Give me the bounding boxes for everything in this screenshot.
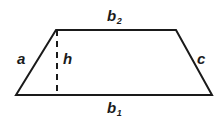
trapezoid-figure: b2 b1 a c h (0, 0, 223, 123)
label-height: h (63, 51, 72, 66)
label-bottom-base: b1 (107, 100, 121, 115)
label-bottom-base-subscript: 1 (117, 108, 122, 118)
label-top-base-text: b (107, 7, 116, 24)
label-right-side-text: c (197, 50, 205, 67)
label-left-side-text: a (17, 50, 25, 67)
label-right-side: c (197, 51, 205, 66)
label-top-base-subscript: 2 (117, 16, 122, 26)
label-top-base: b2 (107, 8, 121, 23)
label-bottom-base-text: b (107, 99, 116, 116)
label-left-side: a (17, 51, 25, 66)
label-height-text: h (63, 50, 72, 67)
trapezoid-outline (16, 30, 212, 95)
